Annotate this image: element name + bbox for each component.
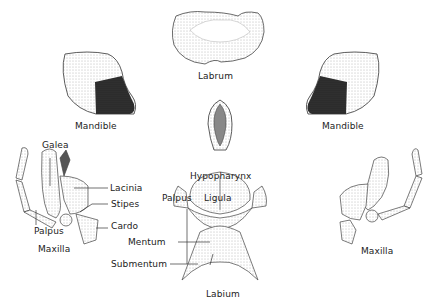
- label-cardo: Cardo: [111, 221, 138, 231]
- maxilla-right-drawing: [340, 149, 422, 244]
- label-palpus-labium: Palpus: [162, 193, 192, 203]
- label-maxilla-right: Maxilla: [361, 246, 393, 256]
- labrum-drawing: [172, 12, 264, 65]
- label-labrum: Labrum: [198, 71, 233, 81]
- label-lacinia: Lacinia: [110, 183, 142, 193]
- label-hypopharynx: Hypopharynx: [190, 171, 251, 181]
- label-mandible-left: Mandible: [75, 121, 117, 131]
- hypopharynx-drawing: [208, 100, 232, 150]
- label-mandible-right: Mandible: [322, 121, 364, 131]
- label-labium: Labium: [206, 289, 240, 299]
- label-ligula: Ligula: [204, 193, 232, 203]
- label-stipes: Stipes: [111, 199, 139, 209]
- label-palpus-maxilla: Palpus: [34, 226, 64, 236]
- mandible-left-drawing: [63, 52, 136, 114]
- label-maxilla-left: Maxilla: [38, 244, 70, 254]
- label-galea: Galea: [42, 140, 69, 150]
- mandible-right-drawing: [306, 52, 379, 114]
- label-mentum: Mentum: [128, 237, 166, 247]
- mouthparts-illustration: [0, 0, 438, 303]
- label-submentum: Submentum: [111, 259, 167, 269]
